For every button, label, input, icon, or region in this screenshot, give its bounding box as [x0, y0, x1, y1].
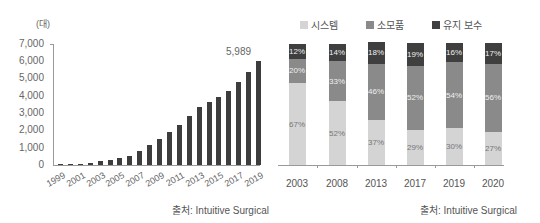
bar — [207, 102, 212, 165]
bar — [246, 72, 251, 165]
y-tick: 6,000 — [0, 55, 44, 66]
bar — [88, 163, 93, 165]
bar — [147, 145, 152, 165]
y-axis — [53, 44, 54, 165]
stacked-bar-2008: 52%33%14% — [329, 44, 346, 165]
legend-item-service: 유지 보수 — [432, 17, 482, 32]
legend-label: 유지 보수 — [443, 17, 482, 32]
segment-consumables: 33% — [329, 61, 346, 101]
stacked-bar-2003: 67%20%12% — [289, 44, 306, 165]
bar — [236, 82, 241, 165]
source-note: 출처: Intuitive Surgical — [172, 202, 269, 217]
legend-label: 시스템 — [311, 17, 338, 32]
bar — [226, 91, 231, 165]
segment-consumables: 56% — [485, 64, 502, 132]
x-axis-tick — [317, 165, 318, 168]
x-axis-tick — [435, 165, 436, 168]
bar — [197, 107, 202, 165]
bar — [157, 139, 162, 165]
stacked-bar-2020: 27%56%17% — [485, 43, 502, 165]
stacked-bar-2019: 30%54%16% — [446, 43, 463, 165]
legend-swatch-consumables — [366, 21, 374, 29]
segment-service: 12% — [289, 44, 306, 59]
segment-service: 17% — [485, 43, 502, 64]
bar — [98, 161, 103, 165]
x-axis — [53, 165, 260, 166]
bar — [108, 160, 113, 165]
y-tick: 7,000 — [0, 38, 44, 49]
segment-system: 29% — [407, 130, 424, 165]
bar — [177, 125, 182, 165]
bar — [187, 116, 192, 165]
stacked-bar-2017: 29%52%19% — [407, 43, 424, 165]
y-unit-label: (대) — [36, 17, 50, 30]
bar — [216, 97, 221, 165]
legend-swatch-system — [300, 21, 308, 29]
x-category-label: 2003 — [277, 178, 317, 189]
bar — [127, 156, 132, 165]
source-note: 출처: Intuitive Surgical — [420, 202, 517, 217]
x-axis-tick — [474, 165, 475, 168]
x-category-label: 2013 — [356, 178, 396, 189]
x-axis-tick — [396, 165, 397, 168]
x-category-label: 2017 — [395, 178, 435, 189]
segment-system: 52% — [329, 101, 346, 165]
legend-item-consumables: 소모품 — [366, 17, 404, 32]
y-tick: 5,000 — [0, 72, 44, 83]
segment-system: 67% — [289, 83, 306, 165]
x-category-label: 2008 — [317, 178, 357, 189]
y-axis-tick — [50, 44, 53, 45]
bar — [117, 158, 122, 165]
x-category-label: 2019 — [434, 178, 474, 189]
installed-base-bar-chart: (대) 7,000 6,000 5,000 4,000 3,000 2,000 … — [0, 0, 270, 223]
y-tick: 4,000 — [0, 90, 44, 101]
segment-service: 16% — [446, 43, 463, 63]
legend-label: 소모품 — [377, 17, 404, 32]
x-axis-tick — [357, 165, 358, 168]
segment-consumables: 54% — [446, 62, 463, 128]
y-tick: 1,000 — [0, 142, 44, 153]
y-tick: 3,000 — [0, 107, 44, 118]
segment-consumables: 20% — [289, 59, 306, 83]
x-category-label: 2020 — [473, 178, 513, 189]
segment-system: 27% — [485, 132, 502, 165]
bar — [68, 164, 73, 165]
segment-consumables: 46% — [368, 64, 385, 120]
bar — [58, 164, 63, 165]
revenue-mix-stacked-chart: 시스템 소모품 유지 보수 67%20%12%200352%33%14%2008… — [270, 0, 540, 223]
x-axis — [278, 165, 504, 166]
stacked-bar-2013: 37%46%18% — [368, 42, 385, 165]
segment-consumables: 52% — [407, 66, 424, 130]
bar — [137, 151, 142, 165]
bar — [256, 61, 261, 165]
segment-system: 30% — [446, 128, 463, 165]
segment-system: 37% — [368, 120, 385, 165]
segment-service: 18% — [368, 42, 385, 64]
value-callout: 5,989 — [226, 46, 251, 57]
legend: 시스템 소모품 유지 보수 — [300, 17, 482, 32]
y-tick: 2,000 — [0, 124, 44, 135]
bar — [78, 164, 83, 165]
legend-swatch-service — [432, 21, 440, 29]
legend-item-system: 시스템 — [300, 17, 338, 32]
bar — [167, 132, 172, 165]
segment-service: 14% — [329, 44, 346, 61]
y-tick: 0 — [0, 159, 44, 170]
segment-service: 19% — [407, 43, 424, 66]
